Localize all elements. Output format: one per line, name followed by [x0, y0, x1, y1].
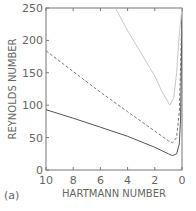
x-tick-label: 10 — [39, 174, 53, 187]
series-line-dashed — [46, 8, 182, 143]
data-series — [46, 8, 182, 156]
y-tick-label: 100 — [22, 99, 43, 112]
y-axis-ticks: 050100150200250 — [22, 2, 49, 177]
x-tick-label: 2 — [151, 174, 158, 187]
panel-label: (a) — [4, 189, 19, 202]
y-tick-label: 200 — [22, 34, 43, 47]
y-tick-label: 150 — [22, 67, 43, 80]
series-line-solid — [46, 8, 182, 156]
x-tick-label: 6 — [97, 174, 104, 187]
x-axis-label: HARTMANN NUMBER — [62, 188, 166, 199]
x-tick-label: 0 — [179, 174, 186, 187]
y-tick-label: 250 — [22, 2, 43, 15]
x-tick-label: 4 — [124, 174, 131, 187]
series-line-light — [115, 8, 182, 105]
plot-frame — [46, 8, 182, 170]
y-axis-label: REYNOLDS NUMBER — [7, 38, 18, 139]
y-tick-label: 50 — [29, 132, 43, 145]
axes-box — [46, 8, 182, 170]
chart: 050100150200250 1086420 REYNOLDS NUMBER … — [0, 0, 196, 211]
x-axis-ticks: 1086420 — [39, 8, 186, 187]
x-tick-label: 8 — [70, 174, 77, 187]
